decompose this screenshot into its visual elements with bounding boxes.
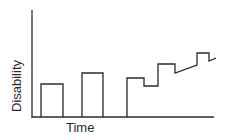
y-axis-label: Disability xyxy=(9,60,24,112)
disability-time-diagram: Disability Time xyxy=(0,0,230,140)
episode-2-pulse xyxy=(82,73,103,117)
x-axis-label: Time xyxy=(66,120,94,135)
progressive-course-line xyxy=(127,53,216,117)
diagram-canvas xyxy=(0,0,230,140)
episode-1-pulse xyxy=(41,84,63,117)
